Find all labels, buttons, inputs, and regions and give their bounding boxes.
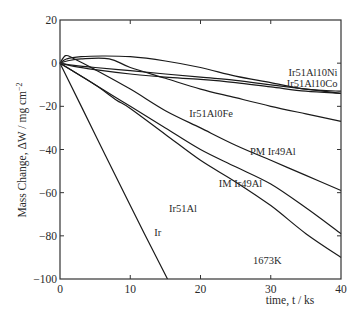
series-label: Ir (154, 227, 161, 238)
x-axis-title: time, t / ks (266, 294, 315, 307)
x-tick-label: 0 (57, 283, 63, 295)
series-label: Ir51Al (169, 203, 197, 214)
data-curves (60, 55, 341, 279)
mass-change-chart: 010203040 200−20−40−60−80−100 Ir51Al10Ni… (0, 0, 362, 324)
y-tick-label: −80 (39, 230, 57, 242)
series-label: PM Ir49Al (250, 146, 296, 157)
x-tick-label: 40 (335, 283, 347, 295)
x-tick-label: 10 (125, 283, 137, 295)
y-tick-label: −60 (39, 187, 57, 199)
x-tick-label: 20 (195, 283, 207, 295)
series-label: IM Ir49Al (219, 178, 263, 189)
series-label: Ir51Al10Co (287, 78, 338, 89)
y-axis-title-text: Mass Change, ΔW / mg cm (16, 91, 29, 218)
series-line-ir51al (60, 63, 341, 257)
y-axis-title: Mass Change, ΔW / mg cm−2 (15, 82, 29, 217)
y-tick-label: −20 (39, 100, 57, 112)
y-tick-label: 0 (51, 57, 57, 69)
series-labels: Ir51Al10NiIr51Al10CoIr51Al0FePM Ir49AlIM… (154, 67, 337, 266)
y-tick-label: 20 (46, 14, 58, 26)
x-axis-ticks: 010203040 (57, 20, 347, 295)
series-label: 1673K (253, 255, 282, 266)
y-tick-label: −100 (33, 273, 57, 285)
series-label: Ir51Al0Fe (189, 108, 233, 119)
y-tick-label: −40 (39, 144, 57, 156)
series-label: Ir51Al10Ni (288, 67, 337, 78)
